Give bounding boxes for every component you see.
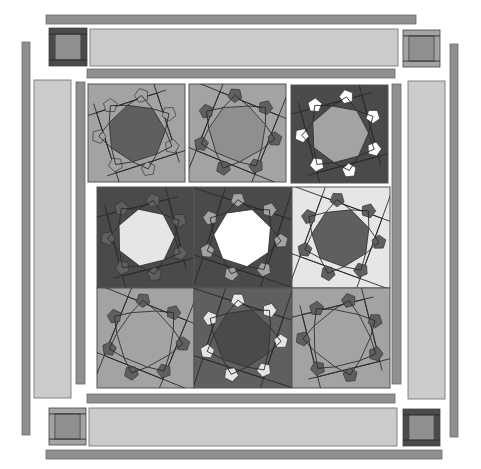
border-wide-left bbox=[34, 80, 71, 398]
border-inner-bottom bbox=[87, 394, 395, 403]
corner-top-left bbox=[49, 28, 87, 66]
border-inner-right bbox=[392, 84, 401, 384]
border-outer-right bbox=[450, 44, 458, 437]
corner-top-right bbox=[403, 30, 440, 67]
border-inner-left bbox=[76, 82, 85, 384]
border-outer-bottom bbox=[46, 450, 442, 459]
corner-bottom-right bbox=[403, 409, 440, 446]
block-r2c2 bbox=[186, 180, 300, 294]
border-inner-top bbox=[87, 69, 395, 78]
border-wide-right bbox=[408, 81, 445, 399]
block-r3c1 bbox=[90, 283, 201, 394]
block-r3c2 bbox=[186, 281, 300, 395]
border-wide-top bbox=[90, 29, 398, 66]
corner-bottom-left bbox=[49, 408, 86, 445]
border-outer-left bbox=[22, 42, 30, 435]
star-blocks bbox=[60, 57, 417, 414]
border-outer-top bbox=[46, 15, 416, 24]
block-r2c3 bbox=[286, 182, 396, 292]
border-wide-bottom bbox=[89, 408, 397, 446]
quilt-diagram bbox=[0, 0, 481, 469]
block-r1c2 bbox=[182, 78, 293, 189]
